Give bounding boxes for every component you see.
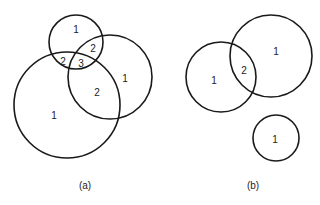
set-circle	[68, 35, 152, 119]
venn-overlap-diagram: 1223121(a) 1211(b)	[0, 0, 320, 205]
panel-b-overlapping-circles: 1211(b)	[186, 15, 312, 191]
region-count-label: 1	[73, 24, 79, 35]
region-count-label: 2	[94, 87, 100, 98]
panel-caption: (a)	[79, 180, 91, 191]
panel-a-overlapping-circles: 1223121(a)	[14, 15, 152, 191]
region-count-label: 1	[211, 75, 217, 86]
region-count-label: 1	[51, 110, 57, 121]
set-circle	[230, 15, 312, 97]
region-count-label: 1	[272, 134, 278, 145]
region-count-label: 1	[273, 46, 279, 57]
region-count-label: 1	[122, 73, 128, 84]
region-count-label: 2	[90, 43, 96, 54]
region-count-label: 2	[60, 56, 66, 67]
set-circle	[186, 42, 256, 112]
region-count-label: 3	[78, 58, 84, 69]
region-count-label: 2	[241, 65, 247, 76]
panel-caption: (b)	[247, 180, 259, 191]
